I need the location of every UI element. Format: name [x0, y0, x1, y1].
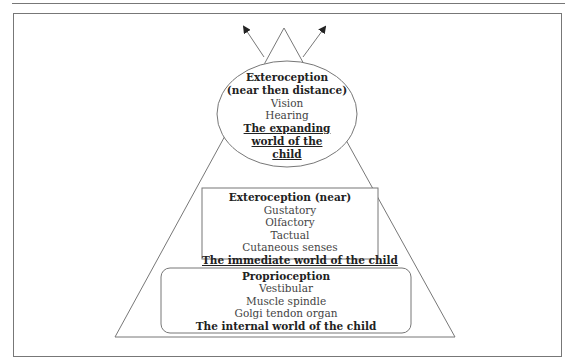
middle-box-item-olfactory: Olfactory — [202, 216, 378, 229]
middle-box-item-cutaneous: Cutaneous senses — [202, 241, 378, 254]
bottom-box-item-vestibular: Vestibular — [161, 282, 411, 294]
bottom-box-title: Proprioception — [161, 270, 411, 282]
ellipse-summary-line-2: world of the — [217, 135, 357, 148]
middle-box-item-tactual: Tactual — [202, 229, 378, 242]
bottom-box-summary: The internal world of the child — [161, 320, 411, 332]
ellipse-title-line-1: Exteroception — [217, 71, 357, 84]
bottom-box-item-golgi: Golgi tendon organ — [161, 307, 411, 319]
arrow-up-right-icon — [303, 27, 325, 57]
ellipse-item-hearing: Hearing — [217, 109, 357, 122]
ellipse-title-line-2: (near then distance) — [217, 84, 357, 97]
bottom-box-labels: Proprioception Vestibular Muscle spindle… — [161, 270, 411, 332]
arrow-up-left-icon — [244, 27, 264, 57]
bottom-box-item-muscle-spindle: Muscle spindle — [161, 295, 411, 307]
middle-box-title: Exteroception (near) — [202, 191, 378, 204]
middle-box-summary: The immediate world of the child — [202, 254, 378, 267]
ellipse-summary-line-3: child — [217, 148, 357, 161]
ellipse-summary-line-1: The expanding — [217, 122, 357, 135]
middle-box-item-gustatory: Gustatory — [202, 204, 378, 217]
ellipse-item-vision: Vision — [217, 97, 357, 110]
middle-box-labels: Exteroception (near) Gustatory Olfactory… — [202, 191, 378, 267]
top-ellipse-labels: Exteroception (near then distance) Visio… — [217, 71, 357, 161]
